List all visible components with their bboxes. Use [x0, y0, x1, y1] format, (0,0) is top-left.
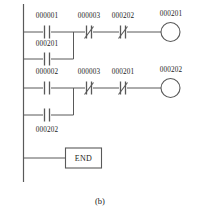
label-rung-2-contact-000003: 000003 — [78, 69, 100, 76]
label-branch-2-contact-000202: 000202 — [36, 127, 58, 134]
ladder-logic-figure: 000001 000003 000202 000201 000201 00000… — [0, 0, 200, 215]
end-instruction-label: END — [75, 154, 92, 163]
label-rung-2-coil-000202: 000202 — [160, 67, 182, 74]
label-rung-2-contact-000002: 000002 — [36, 69, 58, 76]
label-rung-1-contact-000202: 000202 — [112, 13, 134, 20]
label-rung-2-contact-000201: 000201 — [112, 69, 134, 76]
label-branch-1-contact-000201: 000201 — [36, 41, 58, 48]
rung-2-coil-000202 — [161, 79, 180, 98]
label-rung-1-contact-000001: 000001 — [36, 13, 58, 20]
label-rung-1-coil-000201: 000201 — [160, 11, 182, 18]
label-rung-1-contact-000003: 000003 — [78, 13, 100, 20]
figure-caption: (b) — [95, 196, 105, 206]
ladder-diagram-canvas — [0, 0, 200, 215]
rung-1-coil-000201 — [161, 23, 180, 42]
